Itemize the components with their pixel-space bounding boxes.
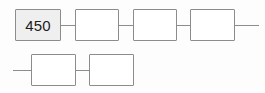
wrap-in-left (13, 70, 31, 71)
node-4[interactable] (190, 9, 235, 41)
node-3[interactable] (133, 9, 177, 41)
node-6[interactable] (89, 54, 134, 86)
node-1[interactable]: 450 (15, 9, 61, 41)
connector-2-3 (119, 25, 133, 26)
diagram-canvas: 450 (0, 0, 265, 93)
node-5[interactable] (31, 54, 76, 86)
node-1-label: 450 (25, 18, 51, 33)
node-2[interactable] (75, 9, 119, 41)
connector-1-2 (61, 25, 75, 26)
connector-3-4 (177, 25, 190, 26)
connector-5-6 (76, 70, 89, 71)
wrap-out-right (235, 25, 259, 26)
